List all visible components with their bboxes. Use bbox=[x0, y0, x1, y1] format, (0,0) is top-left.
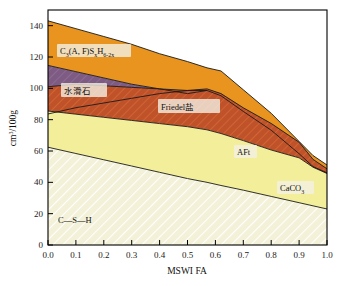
y-axis-title-rest: /100g bbox=[8, 110, 18, 132]
y-tick-100: 100 bbox=[30, 83, 44, 93]
friedel-label-main: Friedel bbox=[161, 102, 186, 112]
x-tick-0: 0.0 bbox=[42, 250, 54, 260]
x-tick-5: 0.5 bbox=[182, 250, 194, 260]
svg-text:cm3/100g: cm3/100g bbox=[8, 110, 19, 146]
csh-label: C—S—H bbox=[58, 215, 92, 225]
annotation-caco3: CaCO3 bbox=[277, 181, 314, 195]
x-tick-7: 0.7 bbox=[238, 250, 250, 260]
x-tick-labels: 0.0 0.1 0.2 0.3 0.4 0.5 0.6 0.7 0.8 0.9 … bbox=[42, 250, 333, 260]
x-tick-8: 0.8 bbox=[266, 250, 278, 260]
annotation-aft: AFt bbox=[234, 145, 257, 158]
x-tick-4: 0.4 bbox=[154, 250, 166, 260]
caco3-label-main: CaCO bbox=[280, 183, 301, 193]
hydrogarnet-sub-62x: 6-2x bbox=[103, 52, 114, 58]
caco3-label-sub: 3 bbox=[301, 189, 304, 195]
annotation-hydrotalcite: 水滑石 bbox=[61, 83, 107, 97]
x-tick-10: 1.0 bbox=[321, 250, 333, 260]
y-tick-40: 40 bbox=[34, 177, 44, 187]
annotation-friedel: Friedel盐 bbox=[158, 99, 220, 113]
x-tick-2: 0.2 bbox=[98, 250, 109, 260]
svg-text:Friedel盐: Friedel盐 bbox=[161, 102, 194, 112]
y-tick-140: 140 bbox=[30, 21, 44, 31]
y-tick-60: 60 bbox=[34, 146, 44, 156]
x-axis-title: MSWI FA bbox=[167, 266, 207, 276]
y-tick-labels: 0 20 40 60 80 100 120 140 bbox=[30, 21, 44, 250]
aft-label: AFt bbox=[237, 147, 251, 157]
x-tick-9: 0.9 bbox=[293, 250, 305, 260]
y-axis-title: cm3/100g bbox=[8, 110, 19, 146]
hydrotalcite-label: 水滑石 bbox=[64, 86, 91, 96]
annotation-hydrogarnet: C3(A, F)SxH6-2x bbox=[57, 44, 131, 58]
phase-diagram-svg: 0 20 40 60 80 100 120 140 0.0 0.1 bbox=[0, 0, 339, 286]
hydrogarnet-mid: (A, F)S bbox=[69, 46, 95, 56]
annotation-csh: C—S—H bbox=[58, 215, 92, 225]
friedel-label-cjk: 盐 bbox=[185, 102, 194, 112]
y-tick-80: 80 bbox=[34, 115, 44, 125]
svg-text:CaCO3: CaCO3 bbox=[280, 183, 304, 195]
y-tick-0: 0 bbox=[39, 240, 44, 250]
y-axis-title-main: cm bbox=[8, 134, 18, 146]
y-tick-20: 20 bbox=[34, 209, 44, 219]
x-tick-6: 0.6 bbox=[210, 250, 222, 260]
y-tick-120: 120 bbox=[30, 52, 44, 62]
x-tick-3: 0.3 bbox=[126, 250, 138, 260]
x-tick-1: 0.1 bbox=[70, 250, 81, 260]
chart-figure: 0 20 40 60 80 100 120 140 0.0 0.1 bbox=[0, 0, 339, 286]
